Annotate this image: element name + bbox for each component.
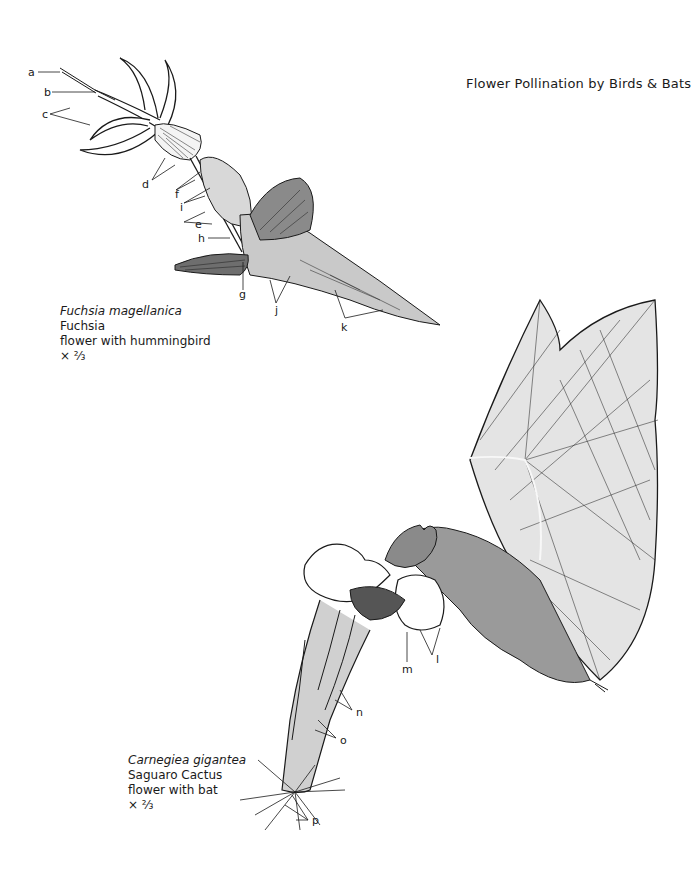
caption-fuchsia: Fuchsia magellanica Fuchsia flower with … (60, 304, 211, 364)
label-c: c (42, 108, 48, 121)
label-n: n (356, 706, 363, 719)
label-f: f (175, 188, 180, 201)
label-g: g (239, 288, 246, 301)
scale-note: × ⅔ (128, 798, 246, 813)
figure-description: flower with hummingbird (60, 334, 211, 349)
scientific-name: Fuchsia magellanica (60, 304, 211, 319)
label-j: j (274, 304, 278, 317)
label-l: l (436, 653, 439, 666)
common-name: Saguaro Cactus (128, 768, 246, 783)
fuchsia-hummingbird-illustration (60, 58, 440, 325)
label-m: m (402, 663, 413, 676)
label-b: b (44, 86, 51, 99)
caption-saguaro: Carnegiea gigantea Saguaro Cactus flower… (128, 753, 246, 813)
scale-note: × ⅔ (60, 349, 211, 364)
label-i: i (180, 201, 183, 214)
scientific-name: Carnegiea gigantea (128, 753, 246, 768)
label-k: k (341, 321, 348, 334)
label-h: h (198, 232, 205, 245)
label-d: d (142, 178, 149, 191)
label-a: a (28, 66, 35, 79)
label-p: p (312, 814, 319, 827)
saguaro-bat-illustration (240, 300, 658, 830)
common-name: Fuchsia (60, 319, 211, 334)
illustration-canvas: a b c d e f g h i j k (0, 0, 697, 874)
label-o: o (340, 734, 347, 747)
figure-description: flower with bat (128, 783, 246, 798)
label-e: e (195, 218, 202, 231)
